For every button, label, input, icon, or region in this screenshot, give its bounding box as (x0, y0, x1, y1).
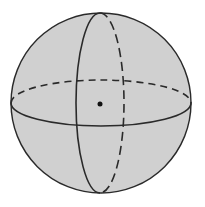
center-point (98, 102, 103, 107)
sphere-diagram (0, 0, 205, 207)
sphere-svg (0, 0, 205, 207)
